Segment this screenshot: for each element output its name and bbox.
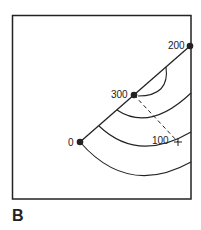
- label-100: 100: [152, 135, 169, 146]
- label-300: 300: [111, 89, 128, 100]
- label-0: 0: [68, 137, 74, 148]
- arc-2: [117, 93, 191, 118]
- arc-4: [80, 142, 191, 176]
- point-300-dot: [131, 92, 138, 99]
- frame-border: [13, 16, 192, 200]
- arc-1: [138, 67, 166, 96]
- point-0-dot: [77, 139, 84, 146]
- panel-label: B: [12, 207, 24, 224]
- diagram-canvas: 0 300 200 100 B: [0, 0, 201, 230]
- arc-3: [99, 126, 191, 146]
- point-200-dot: [187, 43, 194, 50]
- label-200: 200: [168, 40, 185, 51]
